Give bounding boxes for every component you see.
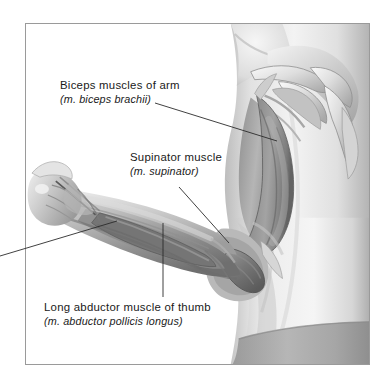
callout-biceps-primary: Biceps muscles of arm — [60, 78, 180, 93]
callout-abductor-primary: Long abductor muscle of thumb — [44, 300, 211, 315]
knuckle-highlight — [35, 184, 49, 194]
illustration-page: Biceps muscles of arm (m. biceps brachii… — [0, 0, 382, 383]
callout-supinator-primary: Supinator muscle — [130, 150, 222, 165]
callout-abductor-latin: (m. abductor pollicis longus) — [44, 315, 211, 329]
callout-biceps-latin: (m. biceps brachii) — [60, 93, 180, 107]
callout-abductor: Long abductor muscle of thumb (m. abduct… — [44, 300, 211, 328]
callout-biceps: Biceps muscles of arm (m. biceps brachii… — [60, 78, 180, 106]
callout-supinator: Supinator muscle (m. supinator) — [130, 150, 222, 178]
callout-supinator-latin: (m. supinator) — [130, 165, 222, 179]
